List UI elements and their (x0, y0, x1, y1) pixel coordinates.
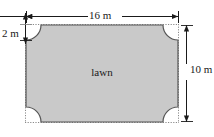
lawn-geometry-figure: 16 m 2 m 10 m lawn (0, 0, 214, 137)
dimension-height-arrowhead-top (184, 25, 189, 31)
dimension-height-arrowhead-bottom (184, 116, 189, 122)
dimension-label-corner-radius: 2 m (1, 28, 20, 39)
dimension-label-width: 16 m (88, 10, 112, 21)
lawn-area-label: lawn (0, 67, 204, 78)
